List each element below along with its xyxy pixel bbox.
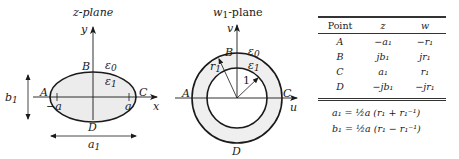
cell-z: −a₁ [362, 36, 404, 47]
table-row: B jb₁ jr₁ [318, 49, 446, 64]
cell-w: −r₁ [404, 36, 446, 47]
x-axis-label: x [153, 100, 160, 113]
mapping-table: Point z w A −a₁ −r₁ B jb₁ jr₁ C a₁ r₁ D … [318, 16, 446, 101]
header-z: z [362, 20, 404, 31]
header-point: Point [318, 20, 362, 31]
table-header-row: Point z w [318, 18, 446, 33]
table-bottom-rule-1 [318, 98, 446, 99]
cell-point: A [318, 36, 362, 47]
cell-w: r₁ [404, 66, 446, 77]
point-d-label: D [87, 121, 97, 134]
cell-z: jb₁ [362, 51, 404, 62]
point-b-label: B [224, 46, 233, 59]
v-axis-label: v [227, 22, 234, 35]
header-w: w [404, 20, 446, 31]
cell-w: jr₁ [404, 51, 446, 62]
focus-right-label: a [125, 100, 132, 113]
z-plane-diagram: z-plane y x B A C D ε0 ε1 −a a b1 a1 [5, 6, 160, 152]
point-c-label: C [283, 87, 292, 100]
point-a-label: A [39, 86, 48, 99]
point-d-label: D [231, 145, 241, 158]
cell-z: −jb₁ [362, 81, 404, 92]
u-axis-label: u [290, 101, 297, 114]
table-row: C a₁ r₁ [318, 64, 446, 79]
y-axis-label: y [80, 23, 88, 36]
equations: a₁ = ½a (r₁ + r₁⁻¹) b₁ = ½a (r₁ − r₁⁻¹) [332, 105, 421, 137]
table-bottom-rule-2 [318, 100, 446, 101]
cell-point: D [318, 81, 362, 92]
epsilon-0-label: ε0 [105, 59, 117, 73]
b1-label: b1 [5, 91, 18, 105]
a1-label: a1 [88, 138, 100, 152]
table-row: D −jb₁ −jr₁ [318, 79, 446, 94]
point-a-label: A [181, 87, 190, 100]
epsilon-0-label: ε0 [248, 45, 260, 59]
unit-radius-label: 1 [243, 74, 250, 87]
point-b-label: B [81, 60, 90, 73]
equation-a1: a₁ = ½a (r₁ + r₁⁻¹) [332, 105, 421, 121]
cell-point: C [318, 66, 362, 77]
cell-w: −jr₁ [404, 81, 446, 92]
focus-left-label: −a [46, 100, 62, 113]
w-plane-diagram: w1-plane v u B A C D ε0 ε1 r1 1 [175, 6, 297, 158]
cell-z: a₁ [362, 66, 404, 77]
cell-point: B [318, 51, 362, 62]
equation-b1: b₁ = ½a (r₁ − r₁⁻¹) [332, 121, 421, 137]
point-c-label: C [139, 86, 148, 99]
table-body: A −a₁ −r₁ B jb₁ jr₁ C a₁ r₁ D −jb₁ −jr₁ [318, 34, 446, 94]
z-plane-title: z-plane [72, 6, 114, 19]
w-plane-title: w1-plane [213, 6, 263, 20]
table-row: A −a₁ −r₁ [318, 34, 446, 49]
